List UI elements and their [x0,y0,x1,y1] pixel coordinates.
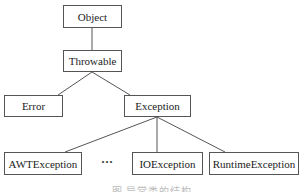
node-runtimeexception: RuntimeException [209,152,299,175]
figure-caption: 图 异常类的结构 [0,183,304,192]
node-awtexception: AWTException [4,152,82,175]
node-throwable: Throwable [63,50,122,72]
ellipsis: ··· [101,155,113,170]
node-ioexception: IOException [132,152,203,175]
node-error: Error [4,95,63,117]
node-object: Object [63,5,122,28]
node-exception: Exception [124,95,191,117]
